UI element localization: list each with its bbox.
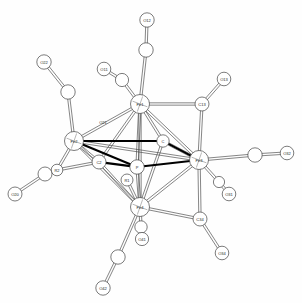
atom-label-P1core: P [136,165,139,170]
atom-sphere-C20 [38,167,52,181]
atom-C11 [115,73,128,86]
atom-label-O13: O13 [220,77,228,82]
atom-C22 [61,85,75,99]
atom-sphere-C12 [139,43,153,57]
atom-label-O21: O21 [99,120,107,125]
atom-label-O42: O42 [99,286,107,291]
atom-sphere-C31 [213,176,224,187]
atom-sphere-C42 [111,250,125,264]
atom-label-O34: O34 [218,251,226,256]
atom-label-O20: O20 [11,192,19,197]
atom-label-O31: O31 [225,192,233,197]
atom-label-Fe3: Fe3 [195,158,203,163]
atom-label-C13: C13 [198,102,206,107]
atom-C31 [213,176,224,187]
atom-sphere-C11 [115,73,128,86]
atom-sphere-C22 [61,85,75,99]
atom-label-Ccen: C [162,139,165,144]
atom-label-Fe1: Fe1 [136,102,144,107]
structure-canvas: Fe1Fe2Fe3Fe4C2CPR1R2C13C34O12O11O22O20O2… [0,0,302,303]
atom-label-R2: R2 [54,168,60,173]
molecular-structure-figure: Fe1Fe2Fe3Fe4C2CPR1R2C13C34O12O11O22O20O2… [0,0,302,303]
atom-C41 [135,221,147,233]
atom-C42 [111,250,125,264]
atom-label-O32: O32 [283,151,291,156]
atom-label-C34: C34 [196,217,204,222]
atom-label-O11: O11 [100,67,108,72]
atom-label-O22: O22 [40,60,48,65]
atom-label-O12: O12 [143,18,151,23]
atom-sphere-C41 [135,221,147,233]
atom-C20 [38,167,52,181]
atom-label-Fe2: Fe2 [70,139,78,144]
atom-label-R1: R1 [124,178,130,183]
atom-label-O41: O41 [138,237,146,242]
atom-label-Fe4: Fe4 [136,205,144,210]
atom-C12 [139,43,153,57]
atom-label-C2: C2 [96,160,102,165]
atom-sphere-C32 [248,148,262,162]
atom-C32 [248,148,262,162]
